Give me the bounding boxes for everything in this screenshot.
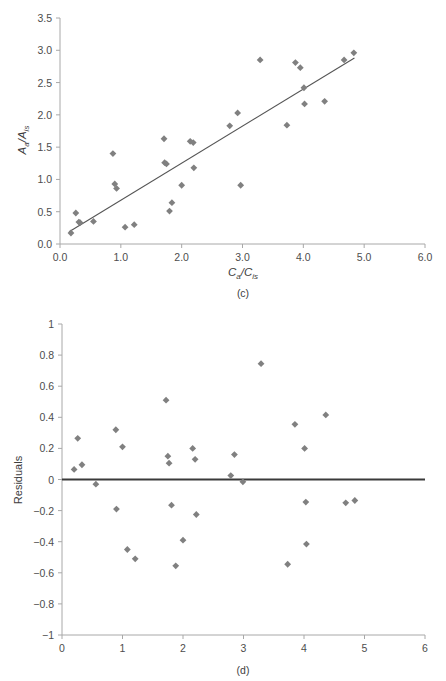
panel-d-y-tick-group: −1−0.8−0.6−0.4−0.200.20.40.60.81 xyxy=(33,318,62,641)
data-point-marker xyxy=(193,511,200,518)
data-point-marker xyxy=(119,443,126,450)
data-point-marker xyxy=(292,421,299,428)
data-point-marker xyxy=(180,537,187,544)
y-tick-label: 0 xyxy=(48,474,54,486)
data-point-marker xyxy=(79,461,86,468)
data-point-marker xyxy=(257,57,264,64)
data-point-marker xyxy=(231,451,238,458)
panel-c-trendline xyxy=(69,58,354,232)
panel-c-x-tick-group: 0.01.02.03.04.05.06.0 xyxy=(53,244,433,263)
x-tick-label: 3 xyxy=(241,642,247,654)
data-point-marker xyxy=(237,182,244,189)
panel-c-label: (c) xyxy=(237,287,249,299)
data-point-marker xyxy=(166,208,173,215)
y-tick-label: 0.6 xyxy=(39,380,54,392)
panel-d-data-points xyxy=(71,360,359,569)
data-point-marker xyxy=(68,230,75,237)
data-point-marker xyxy=(161,135,168,142)
y-tick-label: −0.2 xyxy=(33,505,54,517)
panel-d-ylabel: Residuals xyxy=(12,455,24,504)
x-tick-label: 4 xyxy=(301,642,307,654)
x-tick-label: 5.0 xyxy=(357,251,372,263)
panel-d-residuals: 0123456 −1−0.8−0.6−0.4−0.200.20.40.60.81… xyxy=(0,310,446,681)
x-tick-label: 0 xyxy=(59,642,65,654)
y-tick-label: 1.0 xyxy=(37,173,52,185)
data-point-marker xyxy=(234,110,241,117)
y-tick-label: 0.5 xyxy=(37,206,52,218)
panel-c-ylabel-sub2: is xyxy=(22,126,31,132)
data-point-marker xyxy=(292,59,299,66)
data-point-marker xyxy=(321,98,328,105)
data-point-marker xyxy=(226,122,233,129)
data-point-marker xyxy=(189,445,196,452)
data-point-marker xyxy=(132,555,139,562)
data-point-marker xyxy=(72,210,79,217)
panel-d-x-tick-group: 0123456 xyxy=(59,635,428,654)
regression-line xyxy=(69,58,354,232)
x-tick-label: 6.0 xyxy=(418,251,433,263)
y-tick-label: 1 xyxy=(48,318,54,330)
y-tick-label: 3.0 xyxy=(37,44,52,56)
data-point-marker xyxy=(192,456,199,463)
panel-c-y-tick-group: 0.00.51.01.52.02.53.03.5 xyxy=(37,12,60,250)
data-point-marker xyxy=(303,541,310,548)
data-point-marker xyxy=(302,499,309,506)
y-tick-label: −0.8 xyxy=(33,598,54,610)
panel-d-svg: 0123456 −1−0.8−0.6−0.4−0.200.20.40.60.81… xyxy=(0,310,446,681)
svg-text:Aa/Ais: Aa/Ais xyxy=(16,126,31,156)
figure-container: 0.01.02.03.04.05.06.0 0.00.51.01.52.02.5… xyxy=(0,0,446,681)
x-tick-label: 1 xyxy=(120,642,126,654)
data-point-marker xyxy=(168,502,175,509)
y-tick-label: 0.2 xyxy=(39,442,54,454)
y-tick-label: −0.6 xyxy=(33,567,54,579)
panel-c-scatter: 0.01.02.03.04.05.06.0 0.00.51.01.52.02.5… xyxy=(0,0,446,305)
y-tick-label: 0.0 xyxy=(37,238,52,250)
panel-c-xlabel-mid: /C xyxy=(240,266,253,278)
x-tick-label: 5 xyxy=(362,642,368,654)
data-point-marker xyxy=(350,49,357,56)
data-point-marker xyxy=(227,472,234,479)
data-point-marker xyxy=(166,460,173,467)
data-point-marker xyxy=(110,150,117,157)
data-point-marker xyxy=(284,122,291,129)
x-tick-label: 0.0 xyxy=(53,251,68,263)
data-point-marker xyxy=(163,397,170,404)
data-point-marker xyxy=(322,412,329,419)
y-tick-label: −0.4 xyxy=(33,536,54,548)
data-point-marker xyxy=(351,497,358,504)
data-point-marker xyxy=(71,466,78,473)
panel-c-data-points xyxy=(68,49,358,236)
panel-c-x-axis-title: Ca/Cis xyxy=(228,266,258,281)
x-tick-label: 2.0 xyxy=(174,251,189,263)
data-point-marker xyxy=(301,100,308,107)
x-tick-label: 4.0 xyxy=(296,251,311,263)
data-point-marker xyxy=(297,64,304,71)
data-point-marker xyxy=(172,562,179,569)
panel-c-y-axis-title: Aa/Ais xyxy=(16,126,31,156)
panel-d-y-axis-title: Residuals xyxy=(12,455,24,504)
y-tick-label: 2.5 xyxy=(37,77,52,89)
data-point-marker xyxy=(164,453,171,460)
y-tick-label: 0.8 xyxy=(39,349,54,361)
data-point-marker xyxy=(92,481,99,488)
panel-c-ylabel-main: A xyxy=(16,146,28,155)
data-point-marker xyxy=(74,435,81,442)
x-tick-label: 3.0 xyxy=(235,251,250,263)
panel-c-ylabel-mid: /A xyxy=(16,131,28,143)
x-tick-label: 2 xyxy=(180,642,186,654)
y-tick-label: 0.4 xyxy=(39,411,54,423)
x-tick-label: 1.0 xyxy=(114,251,129,263)
panel-c-svg: 0.01.02.03.04.05.06.0 0.00.51.01.52.02.5… xyxy=(0,0,446,305)
data-point-marker xyxy=(124,546,131,553)
data-point-marker xyxy=(113,506,120,513)
y-tick-label: 1.5 xyxy=(37,141,52,153)
panel-d-label: (d) xyxy=(237,664,250,676)
data-point-marker xyxy=(169,199,176,206)
y-tick-label: 3.5 xyxy=(37,12,52,24)
x-tick-label: 6 xyxy=(422,642,428,654)
y-tick-label: −1 xyxy=(42,629,54,641)
y-tick-label: 2.0 xyxy=(37,109,52,121)
data-point-marker xyxy=(190,164,197,171)
data-point-marker xyxy=(131,221,138,228)
data-point-marker xyxy=(178,182,185,189)
